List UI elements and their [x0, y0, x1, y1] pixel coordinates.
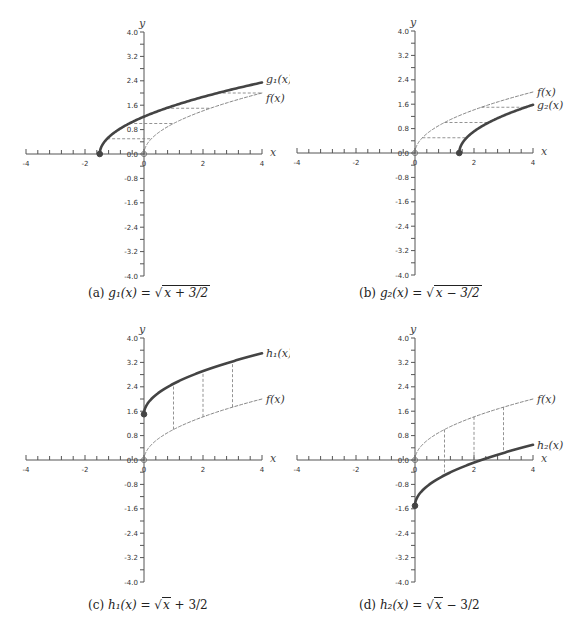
- y-tick-label: -1.6: [124, 199, 138, 207]
- y-tick-label: 0.8: [127, 126, 138, 134]
- y-tick-label: 2.4: [398, 383, 410, 391]
- curve-start-point: [456, 150, 462, 156]
- y-tick-label: 1.6: [398, 408, 410, 416]
- transformed-curve: [459, 105, 533, 153]
- x-axis-label: x: [541, 452, 548, 465]
- caption-suffix: − 3/2: [447, 598, 480, 612]
- panel-c: -4-2024x4.03.22.41.60.80.0-0.8-1.6-2.4-3…: [0, 306, 290, 624]
- x-tick-label: -4: [294, 159, 302, 167]
- x-tick-label: 2: [472, 466, 476, 474]
- x-tick-label: -2: [353, 466, 360, 474]
- y-tick-label: 3.2: [398, 359, 409, 367]
- y-tick-label: 2.4: [127, 77, 139, 85]
- caption-radicand: x − 3/2: [434, 285, 482, 300]
- curve-start-point: [412, 503, 418, 509]
- x-axis-label: x: [541, 145, 548, 158]
- x-tick-label: 4: [260, 160, 265, 168]
- curve-label: f(x): [536, 393, 556, 406]
- caption-tag: (c): [88, 598, 104, 612]
- y-axis-label: y: [409, 323, 417, 336]
- panel-d: -4-2024x4.03.22.41.60.80.0-0.8-1.6-2.4-3…: [271, 306, 581, 624]
- y-tick-label: 1.6: [127, 102, 139, 110]
- y-axis-label: y: [138, 17, 146, 30]
- y-tick-label: 4.0: [127, 29, 138, 37]
- caption-lhs: g₁(x): [108, 286, 137, 300]
- x-tick-label: -2: [82, 160, 89, 168]
- sqrt-symbol: √: [426, 598, 434, 612]
- curve-label: f(x): [536, 86, 556, 99]
- x-tick-label: 2: [201, 160, 205, 168]
- y-tick-label: 0.0: [398, 457, 409, 465]
- caption-lhs: h₂(x): [380, 598, 409, 612]
- y-tick-label: 0.0: [127, 457, 138, 465]
- y-tick-label: -2.4: [124, 224, 138, 232]
- curve-label: h₂(x): [537, 439, 563, 452]
- y-tick-label: 2.4: [398, 76, 410, 84]
- x-tick-label: 4: [260, 466, 265, 474]
- y-tick-label: -1.6: [395, 505, 409, 513]
- plot-c: -4-2024x4.03.22.41.60.80.0-0.8-1.6-2.4-3…: [0, 306, 290, 591]
- caption-lhs: g₂(x): [380, 286, 409, 300]
- y-tick-label: 0.0: [398, 150, 409, 158]
- y-tick-label: -1.6: [124, 505, 138, 513]
- f-curve: [144, 399, 262, 460]
- y-axis-label: y: [138, 323, 146, 336]
- y-tick-label: -2.4: [124, 530, 138, 538]
- y-tick-label: 0.8: [398, 125, 409, 133]
- f-curve: [415, 92, 533, 153]
- plot-a: -4-2024x4.03.22.41.60.80.0-0.8-1.6-2.4-3…: [0, 0, 290, 285]
- y-tick-label: -3.2: [124, 248, 138, 256]
- y-tick-label: -0.8: [395, 481, 409, 489]
- transformed-curve: [100, 82, 262, 154]
- x-tick-label: 4: [531, 466, 536, 474]
- x-tick-label: -4: [23, 160, 31, 168]
- caption-lhs: h₁(x): [108, 598, 137, 612]
- y-tick-label: 3.2: [398, 52, 409, 60]
- caption-radicand: x: [162, 597, 171, 612]
- caption-radicand: x: [434, 597, 443, 612]
- plot-d: -4-2024x4.03.22.41.60.80.0-0.8-1.6-2.4-3…: [271, 306, 581, 591]
- y-tick-label: 0.8: [398, 432, 409, 440]
- sqrt-symbol: √: [154, 598, 162, 612]
- y-tick-label: -0.8: [395, 174, 409, 182]
- y-tick-label: -0.8: [124, 175, 138, 183]
- curve-start-point: [97, 151, 103, 157]
- y-tick-label: 4.0: [398, 28, 409, 36]
- y-tick-label: -4.0: [124, 273, 138, 281]
- sqrt-symbol: √: [426, 286, 434, 300]
- caption-suffix: + 3/2: [175, 598, 208, 612]
- y-tick-label: 0.0: [127, 151, 138, 159]
- y-tick-label: 3.2: [127, 53, 138, 61]
- x-tick-label: -4: [294, 466, 302, 474]
- y-tick-label: -3.2: [395, 554, 409, 562]
- curve-label: g₂(x): [537, 99, 563, 112]
- y-tick-label: -3.2: [124, 554, 138, 562]
- y-tick-label: -4.0: [395, 272, 409, 280]
- caption-a: (a) g₁(x) = √x + 3/2: [88, 286, 210, 300]
- y-tick-label: -4.0: [124, 579, 138, 587]
- y-tick-label: -3.2: [395, 247, 409, 255]
- y-tick-label: -2.4: [395, 530, 409, 538]
- caption-tag: (b): [359, 286, 376, 300]
- y-tick-label: 4.0: [398, 335, 409, 343]
- y-tick-label: 1.6: [127, 408, 139, 416]
- x-tick-label: -2: [353, 159, 360, 167]
- x-tick-label: 2: [472, 159, 476, 167]
- y-tick-label: 1.6: [398, 101, 410, 109]
- x-tick-label: -4: [23, 466, 31, 474]
- caption-tag: (a): [88, 286, 105, 300]
- x-tick-label: 2: [201, 466, 205, 474]
- caption-b: (b) g₂(x) = √x − 3/2: [359, 286, 482, 300]
- curve-start-point: [141, 411, 147, 417]
- y-tick-label: -0.8: [124, 481, 138, 489]
- y-tick-label: 2.4: [127, 383, 139, 391]
- panel-b: -4-2024x4.03.22.41.60.80.0-0.8-1.6-2.4-3…: [271, 0, 581, 310]
- plot-b: -4-2024x4.03.22.41.60.80.0-0.8-1.6-2.4-3…: [271, 0, 581, 285]
- caption-radicand: x + 3/2: [162, 285, 210, 300]
- caption-d: (d) h₂(x) = √x − 3/2: [359, 598, 480, 612]
- caption-c: (c) h₁(x) = √x + 3/2: [88, 598, 208, 612]
- x-tick-label: -2: [82, 466, 89, 474]
- y-tick-label: -4.0: [395, 579, 409, 587]
- caption-tag: (d): [359, 598, 376, 612]
- x-tick-label: 4: [531, 159, 536, 167]
